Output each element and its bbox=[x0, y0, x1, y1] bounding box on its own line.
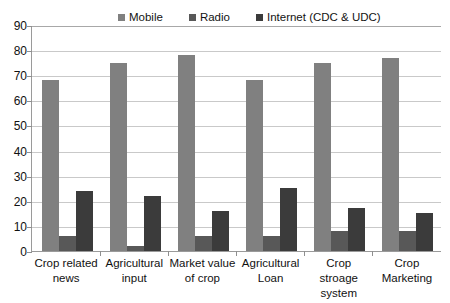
legend-entry: Radio bbox=[189, 11, 230, 23]
y-axis-tick bbox=[27, 152, 32, 153]
legend-swatch-icon bbox=[256, 14, 263, 21]
y-axis-label: 30 bbox=[3, 171, 27, 183]
bar-group bbox=[305, 26, 373, 251]
x-axis-category-label-line: Market value bbox=[169, 256, 235, 271]
bar-internet bbox=[348, 208, 365, 251]
y-axis-tick bbox=[27, 227, 32, 228]
legend-swatch-icon bbox=[118, 14, 125, 21]
legend-entry: Internet (CDC & UDC) bbox=[256, 11, 381, 23]
x-axis-category-label-line: news bbox=[33, 271, 99, 286]
chart-legend: MobileRadioInternet (CDC & UDC) bbox=[118, 9, 444, 25]
y-axis-tick bbox=[27, 76, 32, 77]
bar-chart: MobileRadioInternet (CDC & UDC) 01020304… bbox=[0, 0, 450, 303]
bar-mobile bbox=[178, 55, 195, 251]
x-axis-category-label-line: Agricultural bbox=[101, 256, 167, 271]
plot-area bbox=[31, 26, 441, 252]
x-axis-category-label-line: Loan bbox=[238, 271, 304, 286]
y-axis-tick bbox=[27, 126, 32, 127]
y-axis-label: 50 bbox=[3, 120, 27, 132]
x-axis-category-label-line: Agricultural bbox=[238, 256, 304, 271]
bar-mobile bbox=[110, 63, 127, 251]
x-axis-category-label: Crop stroagesystem bbox=[305, 256, 373, 300]
y-axis-label: 0 bbox=[3, 246, 27, 258]
x-axis-category-label-line: of crop bbox=[169, 271, 235, 286]
bar-group bbox=[237, 26, 305, 251]
x-axis-category-label: Crop relatednews bbox=[32, 256, 100, 300]
y-axis-tick bbox=[27, 252, 32, 253]
y-axis-label: 10 bbox=[3, 221, 27, 233]
x-axis-category-label-line: system bbox=[306, 286, 372, 301]
x-axis-category-label-line: Crop related bbox=[33, 256, 99, 271]
bar-internet bbox=[144, 196, 161, 251]
y-axis-tick bbox=[27, 202, 32, 203]
y-axis-label: 60 bbox=[3, 95, 27, 107]
bar-groups bbox=[33, 26, 441, 251]
y-axis-tick bbox=[27, 101, 32, 102]
y-axis-label: 70 bbox=[3, 70, 27, 82]
bar-radio bbox=[195, 236, 212, 251]
bar-group bbox=[169, 26, 237, 251]
y-axis-label: 40 bbox=[3, 146, 27, 158]
legend-label: Radio bbox=[200, 11, 230, 23]
bar-group bbox=[101, 26, 169, 251]
x-axis-category-label-line: Crop bbox=[374, 256, 440, 271]
bar-mobile bbox=[382, 58, 399, 251]
y-axis-labels: 0102030405060708090 bbox=[0, 26, 27, 252]
y-axis-tick bbox=[27, 177, 32, 178]
bar-internet bbox=[416, 213, 433, 251]
y-axis-tick bbox=[27, 51, 32, 52]
y-axis-label: 90 bbox=[3, 20, 27, 32]
x-axis-category-label-line: input bbox=[101, 271, 167, 286]
bar-internet bbox=[76, 191, 93, 251]
x-axis-category-label: CropMarketing bbox=[373, 256, 441, 300]
y-axis-tick bbox=[27, 26, 32, 27]
bar-internet bbox=[280, 188, 297, 251]
bar-radio bbox=[127, 246, 144, 251]
bar-radio bbox=[331, 231, 348, 251]
legend-label: Mobile bbox=[129, 11, 163, 23]
bar-internet bbox=[212, 211, 229, 251]
bar-mobile bbox=[246, 80, 263, 251]
bar-group bbox=[373, 26, 441, 251]
bar-mobile bbox=[42, 80, 59, 251]
bar-radio bbox=[399, 231, 416, 251]
x-axis-category-label: Market valueof crop bbox=[168, 256, 236, 300]
x-axis-labels: Crop relatednewsAgriculturalinputMarket … bbox=[32, 256, 441, 300]
bar-radio bbox=[59, 236, 76, 251]
legend-swatch-icon bbox=[189, 14, 196, 21]
y-axis-label: 80 bbox=[3, 45, 27, 57]
legend-label: Internet (CDC & UDC) bbox=[267, 11, 381, 23]
bar-group bbox=[33, 26, 101, 251]
x-axis-category-label-line: Crop stroage bbox=[306, 256, 372, 286]
bar-mobile bbox=[314, 63, 331, 251]
x-axis-category-label-line: Marketing bbox=[374, 271, 440, 286]
legend-entry: Mobile bbox=[118, 11, 163, 23]
y-axis-label: 20 bbox=[3, 196, 27, 208]
bar-radio bbox=[263, 236, 280, 251]
x-axis-category-label: AgriculturalLoan bbox=[237, 256, 305, 300]
x-axis-category-label: Agriculturalinput bbox=[100, 256, 168, 300]
